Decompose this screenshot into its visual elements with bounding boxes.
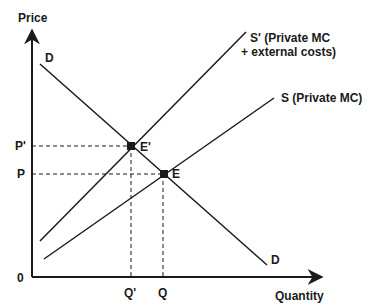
supply-private-curve (44, 98, 274, 259)
origin-label: 0 (17, 271, 24, 285)
e-point (160, 170, 168, 178)
supply-social-curve (40, 32, 246, 241)
demand-label-bottom: D (271, 253, 280, 267)
y-axis-label: Price (18, 11, 48, 25)
e-prime-label: E' (140, 140, 151, 154)
p-tick-label: P (17, 167, 25, 181)
q-tick-label: Q (158, 286, 167, 300)
supply-private-label: S (Private MC) (281, 91, 362, 105)
supply-social-label-line2: + external costs) (241, 45, 336, 59)
demand-label-top: D (45, 51, 54, 65)
p-prime-tick-label: P' (15, 139, 26, 153)
supply-social-label-line1: S' (Private MC (250, 31, 331, 45)
e-prime-point (127, 142, 135, 150)
externality-diagram: Price Quantity 0 D D S' (Private MC + ex… (0, 0, 368, 307)
x-axis-label: Quantity (275, 289, 324, 303)
q-prime-tick-label: Q' (124, 286, 136, 300)
demand-curve (40, 64, 267, 265)
e-label: E (172, 167, 180, 181)
